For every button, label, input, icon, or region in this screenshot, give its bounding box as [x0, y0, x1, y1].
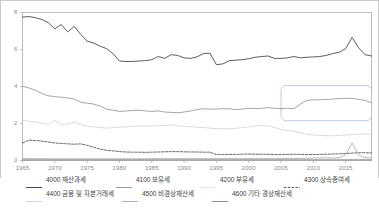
legend-label: 4500 비경상재산세	[142, 190, 194, 198]
chart-svg	[0, 0, 379, 178]
y-tick-label-8: 8	[4, 9, 18, 15]
chart-legend: 4000 재산과세4100 보유세4200 부유세4300 상속증여세 4400…	[0, 178, 379, 214]
legend-label: 4400 금융 및 자본거래세	[46, 190, 114, 198]
legend-label: 4100 보유세	[136, 176, 170, 184]
y-tick-label-6: 6	[4, 46, 18, 52]
y-tick-label-2: 2	[4, 120, 18, 126]
x-tick-label-1980: 1980	[104, 165, 134, 171]
chart-figure: 02468 1965197019751980198519901995200020…	[0, 0, 379, 214]
legend-swatch-icon	[200, 177, 216, 184]
series-line-4000	[23, 17, 372, 65]
x-tick-label-1985: 1985	[137, 165, 167, 171]
x-tick-label-2015: 2015	[331, 165, 361, 171]
legend-swatch-icon	[116, 177, 132, 184]
legend-item-4200[interactable]: 4200 부유세	[200, 176, 254, 184]
x-tick-label-2000: 2000	[234, 165, 264, 171]
x-tick-label-2005: 2005	[266, 165, 296, 171]
legend-swatch-icon	[26, 191, 42, 198]
y-tick-label-0: 0	[4, 157, 18, 163]
x-tick-label-1965: 1965	[8, 165, 38, 171]
legend-item-4600[interactable]: 4600 기타 경상재산세	[212, 190, 292, 198]
legend-label: 4600 기타 경상재산세	[232, 190, 292, 198]
series-line-4300	[23, 140, 372, 154]
legend-item-4100[interactable]: 4100 보유세	[116, 176, 170, 184]
x-tick-label-1990: 1990	[169, 165, 199, 171]
legend-swatch-icon	[212, 191, 228, 198]
legend-label: 4000 재산과세	[46, 176, 86, 184]
legend-label: 4200 부유세	[220, 176, 254, 184]
series-line-4200	[23, 120, 372, 136]
legend-item-4500[interactable]: 4500 비경상재산세	[122, 190, 194, 198]
legend-item-4300[interactable]: 4300 상속증여세	[284, 176, 350, 184]
y-tick-label-4: 4	[4, 83, 18, 89]
x-tick-label-1995: 1995	[201, 165, 231, 171]
legend-item-4400[interactable]: 4400 금융 및 자본거래세	[26, 190, 114, 198]
legend-swatch-icon	[122, 191, 138, 198]
series-line-4100	[23, 86, 372, 113]
legend-swatch-icon	[284, 177, 300, 184]
x-tick-label-1970: 1970	[40, 165, 70, 171]
plot-area: 02468 1965197019751980198519901995200020…	[0, 0, 379, 178]
plot-border	[23, 13, 372, 161]
legend-item-4000[interactable]: 4000 재산과세	[26, 176, 86, 184]
x-tick-label-1975: 1975	[72, 165, 102, 171]
legend-swatch-icon	[26, 177, 42, 184]
legend-label: 4300 상속증여세	[304, 176, 350, 184]
highlight-box	[281, 86, 371, 121]
x-tick-label-2010: 2010	[298, 165, 328, 171]
series-line-4500	[23, 143, 372, 159]
